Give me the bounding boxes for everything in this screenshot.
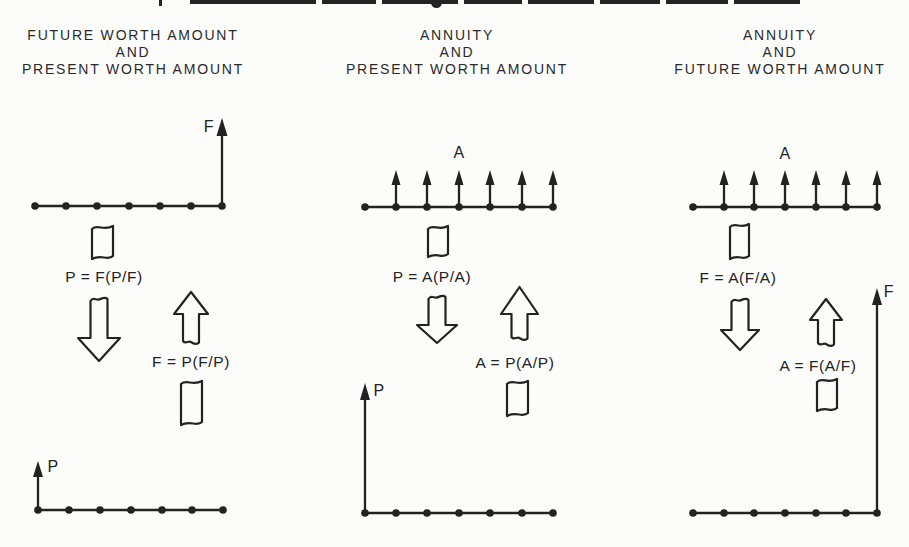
down-block-arrow-icon <box>417 296 457 343</box>
diagram-artwork <box>0 0 909 547</box>
pipe-connector-icon <box>730 224 749 259</box>
up-block-arrow-icon <box>174 292 208 344</box>
figure-canvas: FUTURE WORTH AMOUNT AND PRESENT WORTH AM… <box>0 0 909 547</box>
present-amount-arrow <box>360 383 370 513</box>
pipe-connector-icon <box>92 226 113 259</box>
pipe-connector-icon <box>181 381 202 425</box>
pipe-connector-icon <box>428 226 448 257</box>
future-amount-arrow <box>217 118 228 206</box>
present-amount-arrow <box>33 461 43 510</box>
timeline-bottom-middle <box>361 509 557 517</box>
timeline-bottom-left <box>34 506 227 514</box>
pipe-connector-icon <box>817 379 837 411</box>
up-block-arrow-icon <box>501 287 538 340</box>
down-block-arrow-icon <box>721 299 759 350</box>
annuity-arrows <box>720 170 882 205</box>
future-amount-arrow <box>872 288 882 513</box>
timeline-top-left <box>31 202 226 210</box>
timeline-bottom-right <box>689 509 881 517</box>
down-block-arrow-icon <box>78 298 120 361</box>
up-block-arrow-icon <box>810 299 842 346</box>
pipe-connector-icon <box>507 381 528 416</box>
annuity-arrows <box>392 170 558 205</box>
